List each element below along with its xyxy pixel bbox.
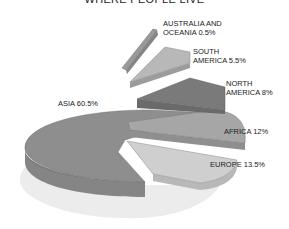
label-europe-text: EUROPE 13.5% bbox=[210, 160, 265, 169]
label-oceania-line2: OCEANIA 0.5% bbox=[163, 28, 222, 37]
label-south-america-line1: SOUTH bbox=[193, 47, 246, 56]
label-south-america-line2: AMERICA 5.5% bbox=[193, 56, 246, 65]
label-north-america-line1: NORTH bbox=[226, 79, 273, 88]
label-oceania-line1: AUSTRALIA AND bbox=[163, 19, 222, 28]
label-north-america: NORTH AMERICA 8% bbox=[226, 79, 273, 97]
pie-chart bbox=[0, 0, 289, 229]
label-south-america: SOUTH AMERICA 5.5% bbox=[193, 47, 246, 65]
label-europe: EUROPE 13.5% bbox=[210, 160, 265, 169]
label-africa: AFRICA 12% bbox=[224, 127, 268, 136]
label-north-america-line2: AMERICA 8% bbox=[226, 88, 273, 97]
label-oceania: AUSTRALIA AND OCEANIA 0.5% bbox=[163, 19, 222, 37]
label-africa-text: AFRICA 12% bbox=[224, 127, 268, 136]
label-asia-text: ASIA 60.5% bbox=[58, 99, 98, 108]
label-asia: ASIA 60.5% bbox=[58, 99, 98, 108]
